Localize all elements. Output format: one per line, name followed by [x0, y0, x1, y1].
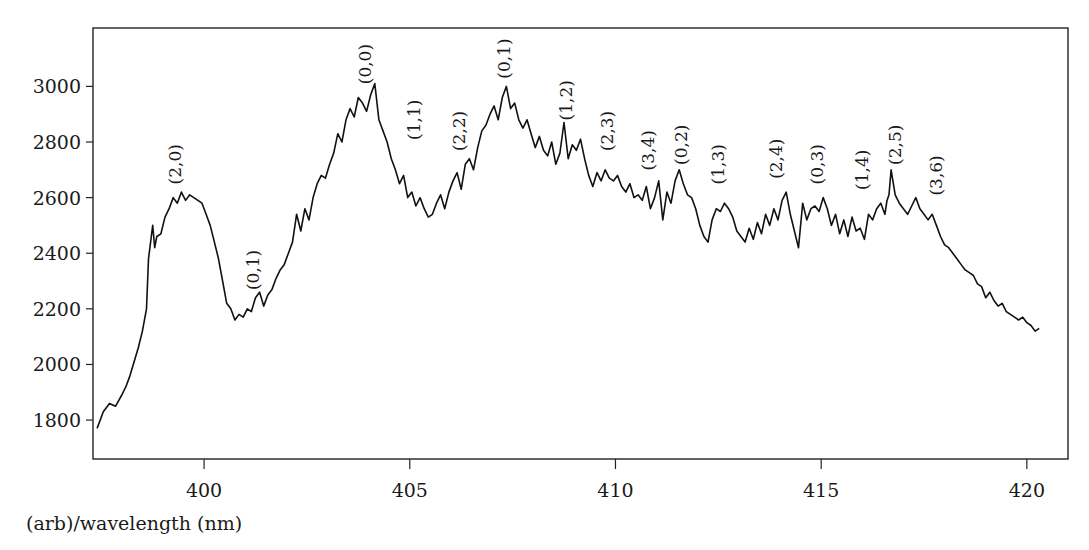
peak-label: (1,4) [852, 150, 872, 190]
peak-label: (2,2) [449, 111, 469, 151]
y-axis: 1800200022002400260028003000 [33, 75, 93, 431]
spectrum-chart: 1800200022002400260028003000 40040541041… [0, 0, 1089, 550]
y-tick-label: 3000 [33, 75, 81, 97]
y-tick-label: 2000 [33, 353, 81, 375]
peak-label: (0,2) [671, 125, 691, 165]
peak-label: (0,1) [243, 250, 263, 290]
y-tick-label: 2800 [33, 131, 81, 153]
peak-label: (0,0) [355, 44, 375, 84]
peak-label: (2,0) [165, 144, 185, 184]
peak-label: (1,2) [556, 80, 576, 120]
x-tick-label: 415 [803, 479, 839, 501]
x-tick-label: 400 [186, 479, 222, 501]
peak-label: (1,3) [708, 144, 728, 184]
x-tick-label: 420 [1009, 479, 1045, 501]
plot-border [93, 28, 1068, 459]
peak-label: (3,6) [926, 155, 946, 195]
x-axis-label: (arb)/wavelength (nm) [26, 512, 242, 534]
x-axis: 400405410415420 [186, 459, 1045, 501]
x-tick-label: 405 [392, 479, 428, 501]
x-tick-label: 410 [597, 479, 633, 501]
peak-label: (2,3) [597, 111, 617, 151]
plot-frame [93, 28, 1068, 459]
peak-label: (3,4) [638, 130, 658, 170]
peak-label: (0,3) [807, 144, 827, 184]
y-tick-label: 2400 [33, 242, 81, 264]
y-tick-label: 2200 [33, 298, 81, 320]
y-tick-label: 2600 [33, 187, 81, 209]
peak-label: (2,4) [766, 139, 786, 179]
peak-label: (2,5) [885, 125, 905, 165]
y-tick-label: 1800 [33, 409, 81, 431]
peak-label: (0,1) [494, 38, 514, 78]
peak-label: (1,1) [404, 100, 424, 140]
